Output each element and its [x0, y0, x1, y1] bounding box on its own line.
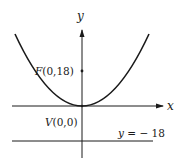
vertex-coords: (0,0): [53, 116, 78, 128]
focus-coords: (0,18): [42, 65, 74, 77]
y-axis-label: y: [76, 9, 84, 23]
focus-label: F(0,18): [34, 65, 74, 77]
vertex-point: [81, 105, 83, 107]
vertex-label: V(0,0): [45, 116, 78, 128]
focus-point: [81, 70, 84, 73]
directrix-label: y = − 18: [117, 127, 165, 139]
x-axis-label: x: [167, 99, 174, 113]
parabola-diagram: y x F(0,18) V(0,0) y = − 18: [0, 0, 184, 166]
directrix-eq: = − 18: [124, 127, 165, 139]
